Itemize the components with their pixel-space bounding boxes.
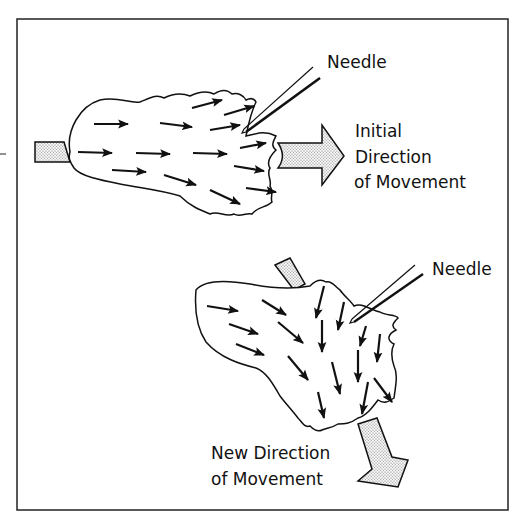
tail-block — [35, 142, 70, 162]
initial-direction-label-line2: Direction — [355, 147, 432, 167]
initial-direction-label-line1: Initial — [355, 121, 402, 141]
new-direction-label-line2: of Movement — [211, 469, 323, 489]
bottom-panel: Needle New Direction of Movement — [195, 258, 491, 489]
initial-direction-label-line3: of Movement — [354, 172, 466, 192]
new-direction-arrow — [358, 418, 408, 487]
cell-movement-diagram: Needle Initial Direction of Movement — [0, 0, 526, 526]
initial-direction-arrow — [278, 125, 344, 185]
needle-label-top: Needle — [327, 52, 387, 72]
needle-label-bottom: Needle — [432, 259, 492, 279]
old-tail-stub — [275, 258, 305, 290]
new-direction-label-line1: New Direction — [211, 443, 330, 463]
cell-outline-bottom — [195, 280, 398, 430]
top-panel: Needle Initial Direction of Movement — [35, 52, 466, 215]
